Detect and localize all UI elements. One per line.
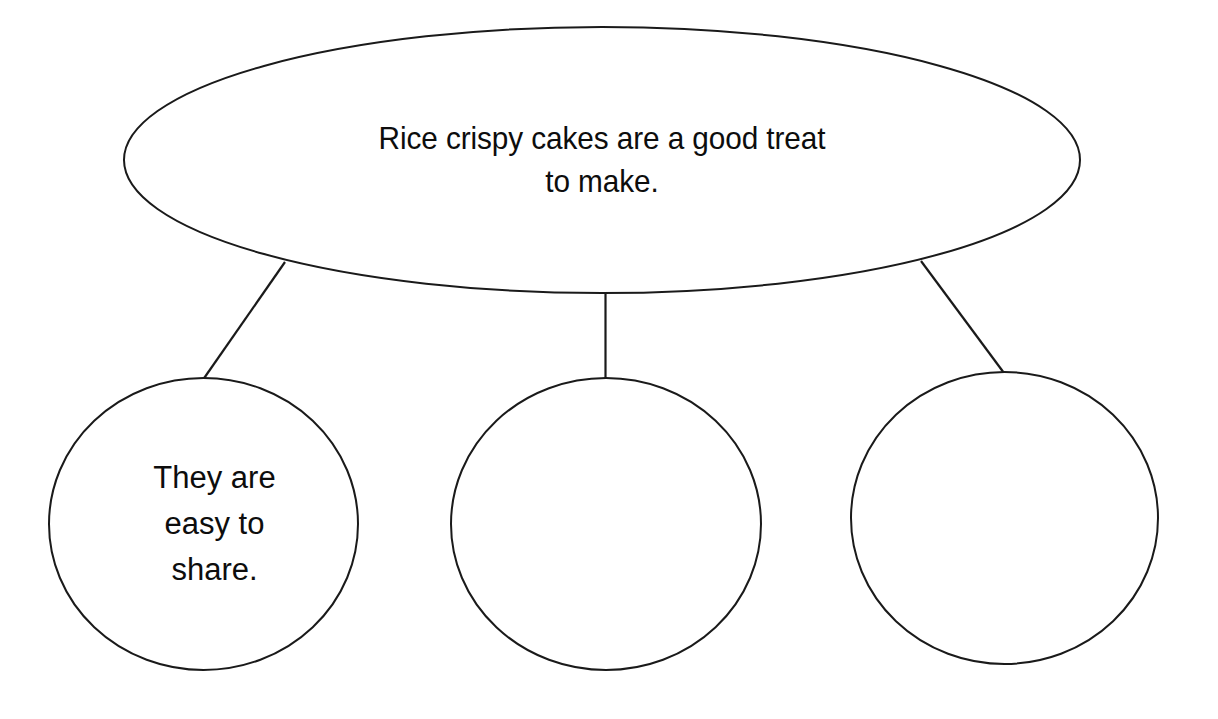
main-topic-ellipse[interactable] (124, 27, 1080, 293)
detail-3-circle[interactable] (851, 372, 1158, 664)
connector-main-to-detail-1 (204, 262, 286, 379)
detail-2-circle[interactable] (451, 378, 761, 670)
connector-main-to-detail-3 (921, 261, 1004, 373)
diagram-svg (0, 0, 1218, 719)
diagram-canvas: Rice crispy cakes are a good treat to ma… (0, 0, 1218, 719)
detail-1-circle[interactable] (49, 378, 358, 670)
